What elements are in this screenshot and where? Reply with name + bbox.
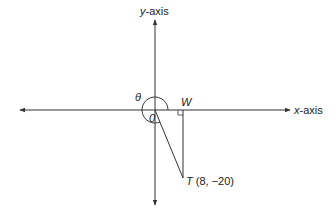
y-axis-label: y-axis: [140, 6, 169, 17]
point-t-name: T: [186, 175, 193, 187]
x-axis-suffix: -axis: [300, 104, 323, 116]
x-axis-label: x-axis: [294, 105, 323, 116]
right-angle-marker: [178, 110, 183, 115]
point-w-label: W: [181, 97, 191, 108]
coordinate-diagram: [0, 0, 336, 215]
angle-theta-label: θ: [135, 92, 141, 103]
origin-label: 0: [149, 113, 155, 124]
point-t-label: T (8, −20): [186, 176, 234, 187]
y-axis-suffix: -axis: [146, 5, 169, 17]
segment-ot: [155, 110, 183, 178]
point-t-coords: (8, −20): [196, 175, 234, 187]
